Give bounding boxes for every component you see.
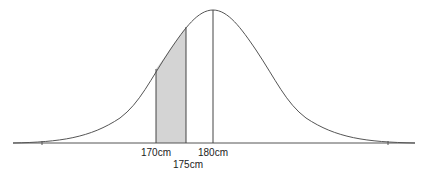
label-170cm: 170cm	[141, 147, 171, 158]
shaded-region	[156, 27, 186, 143]
label-175cm: 175cm	[173, 159, 203, 170]
bell-curve	[13, 10, 415, 143]
label-180cm: 180cm	[198, 147, 228, 158]
